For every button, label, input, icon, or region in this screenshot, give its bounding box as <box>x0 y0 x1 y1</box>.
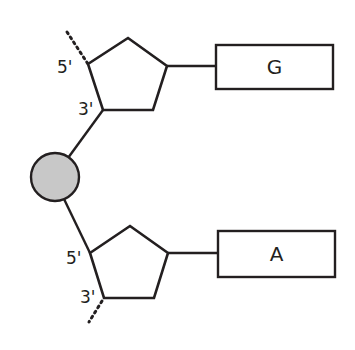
five-prime-label-bottom: 5' <box>66 248 82 268</box>
bond-phosphate-to-sugar-bottom <box>64 199 90 253</box>
nucleotide-top: 5' 3' G <box>57 32 333 119</box>
nucleotide-bottom: 5' 3' A <box>66 226 335 322</box>
sugar-pentagon-top <box>88 38 167 110</box>
base-label-a: A <box>270 242 284 266</box>
dna-diagram: 5' 3' G 5' 3' A <box>0 0 355 350</box>
phosphate-group <box>31 153 79 201</box>
five-prime-label-top: 5' <box>57 57 73 77</box>
three-prime-label-top: 3' <box>78 99 94 119</box>
sugar-pentagon-bottom <box>90 226 168 298</box>
base-label-g: G <box>267 55 283 79</box>
three-prime-label-bottom: 3' <box>80 287 96 307</box>
